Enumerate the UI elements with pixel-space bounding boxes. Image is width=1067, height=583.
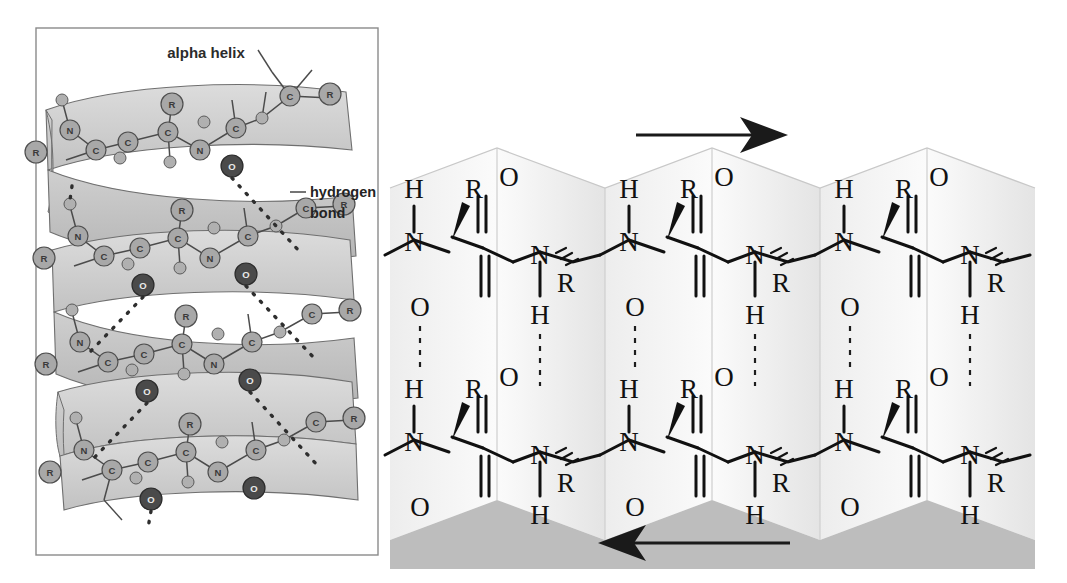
- pleat-shadow-band: [390, 500, 1035, 569]
- atom-label-O: O: [840, 292, 860, 322]
- atom-label-R: R: [680, 174, 698, 204]
- atom-O: O: [235, 263, 257, 285]
- atom-label-N: N: [530, 240, 550, 270]
- hydrogen-bond-label-line2: bond: [310, 205, 345, 221]
- atom-label-H: H: [404, 374, 424, 404]
- atom-O: O: [243, 477, 265, 499]
- svg-text:C: C: [105, 357, 112, 368]
- atom-label-H: H: [745, 500, 765, 530]
- atom-R: R: [33, 247, 55, 269]
- svg-text:C: C: [245, 231, 252, 242]
- svg-text:C: C: [287, 91, 294, 102]
- atom-label-H: H: [834, 174, 854, 204]
- atom-label-O: O: [499, 162, 519, 192]
- svg-text:C: C: [303, 203, 310, 214]
- svg-text:C: C: [93, 145, 100, 156]
- svg-text:N: N: [215, 467, 222, 478]
- svg-text:O: O: [242, 269, 249, 280]
- svg-text:C: C: [109, 465, 116, 476]
- atom-label-R: R: [465, 174, 483, 204]
- svg-text:O: O: [147, 494, 154, 505]
- svg-text:C: C: [165, 127, 172, 138]
- svg-text:C: C: [313, 417, 320, 428]
- atom-N: N: [70, 332, 90, 352]
- atom-N: N: [200, 248, 220, 268]
- svg-text:C: C: [141, 349, 148, 360]
- pleat-face-6: [927, 148, 1035, 540]
- atom-label-R: R: [557, 268, 575, 298]
- atom-O: O: [140, 488, 162, 510]
- atom-label-R: R: [465, 374, 483, 404]
- atom-label-H: H: [834, 374, 854, 404]
- svg-text:O: O: [228, 161, 235, 172]
- atom-C: C: [138, 452, 158, 472]
- atom-label-N: N: [745, 240, 765, 270]
- atom-N: N: [204, 354, 224, 374]
- atom-label-H: H: [619, 374, 639, 404]
- svg-text:C: C: [101, 251, 108, 262]
- pleat-face-4: [712, 148, 820, 540]
- svg-text:N: N: [211, 359, 218, 370]
- svg-text:R: R: [187, 419, 194, 430]
- hydrogen-bond-label-line1: hydrogen: [310, 184, 376, 200]
- atom-R: R: [343, 407, 365, 429]
- atom-C: C: [158, 122, 178, 142]
- atom-label-O: O: [625, 492, 645, 522]
- atom-C: C: [98, 352, 118, 372]
- atom-C: C: [134, 344, 154, 364]
- atom-label-N: N: [530, 440, 550, 470]
- atom-label-O: O: [714, 162, 734, 192]
- svg-text:R: R: [351, 413, 358, 424]
- atom-N: N: [190, 140, 210, 160]
- svg-text:C: C: [125, 137, 132, 148]
- atom-label-H: H: [960, 500, 980, 530]
- svg-text:O: O: [143, 386, 150, 397]
- atom-R: R: [171, 199, 193, 221]
- atom-R: R: [179, 413, 201, 435]
- pleat-face-2: [497, 148, 605, 540]
- svg-text:C: C: [137, 243, 144, 254]
- atom-label-N: N: [404, 427, 424, 457]
- atom-label-O: O: [929, 162, 949, 192]
- atom-label-O: O: [714, 362, 734, 392]
- svg-text:C: C: [233, 123, 240, 134]
- atom-label-R: R: [895, 174, 913, 204]
- atom-label-N: N: [619, 427, 639, 457]
- svg-text:O: O: [250, 483, 257, 494]
- atom-label-N: N: [619, 227, 639, 257]
- atom-C: C: [94, 246, 114, 266]
- svg-text:R: R: [47, 467, 54, 478]
- atom-label-N: N: [745, 440, 765, 470]
- atom-label-R: R: [895, 374, 913, 404]
- svg-text:C: C: [183, 447, 190, 458]
- atom-O: O: [132, 274, 154, 296]
- sheet-bottom-shadow: [390, 500, 1035, 569]
- atom-label-N: N: [404, 227, 424, 257]
- atom-label-R: R: [557, 468, 575, 498]
- atom-label-O: O: [410, 492, 430, 522]
- atom-C: C: [226, 118, 246, 138]
- atom-O: O: [136, 380, 158, 402]
- svg-text:N: N: [75, 231, 82, 242]
- atom-C: C: [238, 226, 258, 246]
- atom-label-R: R: [680, 374, 698, 404]
- atom-C: C: [130, 238, 150, 258]
- svg-text:R: R: [183, 311, 190, 322]
- svg-text:N: N: [67, 125, 74, 136]
- atom-C: C: [168, 228, 188, 248]
- atom-C: C: [86, 140, 106, 160]
- atom-R: R: [175, 305, 197, 327]
- atom-label-H: H: [404, 174, 424, 204]
- atom-C: C: [172, 334, 192, 354]
- atom-C: C: [242, 332, 262, 352]
- svg-text:N: N: [77, 337, 84, 348]
- atom-R: R: [35, 353, 57, 375]
- atom-C: C: [306, 412, 326, 432]
- svg-text:R: R: [347, 305, 354, 316]
- svg-text:R: R: [41, 253, 48, 264]
- svg-text:R: R: [179, 205, 186, 216]
- atom-label-O: O: [499, 362, 519, 392]
- atom-R: R: [161, 93, 183, 115]
- svg-text:R: R: [33, 147, 40, 158]
- atom-label-H: H: [960, 300, 980, 330]
